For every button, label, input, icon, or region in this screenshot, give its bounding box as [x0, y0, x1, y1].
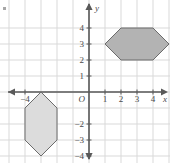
coordinate-grid-figure: −412344321−2−3−4Oxy [0, 0, 170, 163]
upper-hexagon [105, 28, 169, 60]
bullet-mark [3, 7, 6, 10]
x-tick-label-3: 3 [135, 94, 140, 104]
origin-label: O [79, 94, 86, 104]
y-tick-label-1: 1 [80, 71, 85, 81]
x-tick-label-1: 1 [103, 94, 108, 104]
x-tick-label-2: 2 [119, 94, 124, 104]
y-tick-label-4: 4 [80, 23, 85, 33]
y-tick-label--4: −4 [74, 151, 84, 161]
coordinate-plane-svg: −412344321−2−3−4Oxy [0, 0, 170, 163]
y-tick-label--3: −3 [74, 135, 84, 145]
x-tick-label--4: −4 [20, 94, 30, 104]
x-tick-label-4: 4 [151, 94, 156, 104]
y-tick-label--2: −2 [74, 119, 84, 129]
arrow-up [85, 3, 92, 10]
x-axis-label: x [162, 94, 167, 104]
y-tick-label-3: 3 [80, 39, 85, 49]
lower-hexagon [25, 92, 57, 156]
y-tick-label-2: 2 [80, 55, 85, 65]
y-axis-label: y [94, 3, 99, 13]
